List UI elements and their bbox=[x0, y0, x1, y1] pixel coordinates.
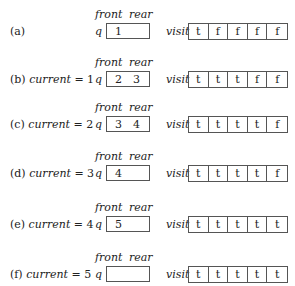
queue-value: 3 bbox=[115, 117, 122, 132]
visit-cell: t bbox=[189, 117, 209, 132]
queue-value: 4 bbox=[133, 117, 140, 132]
visit-array: ttttf bbox=[188, 165, 288, 182]
visit-array: tttff bbox=[188, 71, 288, 88]
visit-cell: t bbox=[248, 117, 268, 132]
step-label: (c) current = 2 bbox=[10, 118, 93, 131]
visit-cell: t bbox=[228, 267, 248, 282]
step-label: (d) current = 3 bbox=[10, 167, 94, 180]
queue-box: 34 bbox=[106, 116, 150, 132]
queue-name: q bbox=[95, 73, 102, 86]
queue-name: q bbox=[95, 167, 102, 180]
queue-value: 4 bbox=[115, 166, 122, 181]
visit-cell: t bbox=[189, 72, 209, 87]
queue-value: 5 bbox=[115, 217, 122, 232]
front-label: front bbox=[95, 56, 122, 69]
queue-box: 4 bbox=[106, 165, 150, 181]
queue-box: 1 bbox=[106, 23, 150, 39]
visit-name: visit bbox=[166, 167, 189, 180]
visit-name: visit bbox=[166, 218, 189, 231]
visit-name: visit bbox=[166, 73, 189, 86]
visit-cell: t bbox=[189, 267, 209, 282]
visit-name: visit bbox=[166, 25, 189, 38]
step-label: (e) current = 4 bbox=[10, 218, 94, 231]
queue-box: 5 bbox=[106, 216, 150, 232]
visit-cell: t bbox=[228, 217, 248, 232]
visit-cell: f bbox=[267, 117, 287, 132]
queue-name: q bbox=[95, 218, 102, 231]
rear-label: rear bbox=[129, 101, 153, 114]
visit-cell: f bbox=[267, 166, 287, 181]
visit-cell: f bbox=[267, 72, 287, 87]
trace-step: (f) current = 5 front rear q visit ttttt bbox=[0, 249, 295, 286]
visit-cell: t bbox=[209, 217, 229, 232]
visit-cell: f bbox=[267, 24, 287, 39]
rear-label: rear bbox=[129, 150, 153, 163]
visit-array: tffff bbox=[188, 23, 288, 40]
step-label: (a) bbox=[10, 25, 25, 38]
rear-label: rear bbox=[129, 201, 153, 214]
visit-cell: t bbox=[267, 267, 287, 282]
visit-name: visit bbox=[166, 268, 189, 281]
visit-array: ttttt bbox=[188, 266, 288, 283]
visit-cell: t bbox=[248, 217, 268, 232]
front-label: front bbox=[95, 8, 122, 21]
rear-label: rear bbox=[129, 8, 153, 21]
visit-cell: t bbox=[209, 117, 229, 132]
trace-step: (e) current = 4 front rear q 5 visit ttt… bbox=[0, 199, 295, 239]
visit-cell: t bbox=[209, 166, 229, 181]
visit-array: ttttf bbox=[188, 116, 288, 133]
rear-label: rear bbox=[129, 56, 153, 69]
queue-value: 2 bbox=[115, 72, 122, 87]
trace-step: (c) current = 2 front rear q 34 visit tt… bbox=[0, 99, 295, 139]
trace-step: (b) current = 1 front rear q 23 visit tt… bbox=[0, 54, 295, 94]
visit-cell: f bbox=[248, 72, 268, 87]
queue-value: 3 bbox=[133, 72, 140, 87]
visit-cell: t bbox=[228, 166, 248, 181]
visit-name: visit bbox=[166, 118, 189, 131]
visit-array: ttttt bbox=[188, 216, 288, 233]
step-label: (b) current = 1 bbox=[10, 73, 94, 86]
front-label: front bbox=[95, 201, 122, 214]
visit-cell: t bbox=[189, 24, 209, 39]
queue-box bbox=[106, 266, 150, 282]
visit-cell: t bbox=[189, 217, 209, 232]
queue-value: 1 bbox=[115, 24, 122, 39]
queue-name: q bbox=[95, 25, 102, 38]
visit-cell: f bbox=[248, 24, 268, 39]
rear-label: rear bbox=[129, 251, 153, 264]
step-label: (f) current = 5 bbox=[10, 268, 91, 281]
queue-box: 23 bbox=[106, 71, 150, 87]
visit-cell: t bbox=[267, 217, 287, 232]
visit-cell: t bbox=[248, 267, 268, 282]
visit-cell: f bbox=[228, 24, 248, 39]
visit-cell: t bbox=[189, 166, 209, 181]
front-label: front bbox=[95, 101, 122, 114]
visit-cell: t bbox=[209, 267, 229, 282]
queue-name: q bbox=[95, 118, 102, 131]
trace-step: (a) front rear q 1 visit tffff bbox=[0, 6, 295, 46]
front-label: front bbox=[95, 150, 122, 163]
trace-step: (d) current = 3 front rear q 4 visit ttt… bbox=[0, 148, 295, 188]
visit-cell: t bbox=[209, 72, 229, 87]
queue-name: q bbox=[95, 268, 102, 281]
front-label: front bbox=[95, 251, 122, 264]
visit-cell: t bbox=[228, 117, 248, 132]
visit-cell: f bbox=[209, 24, 229, 39]
visit-cell: t bbox=[248, 166, 268, 181]
visit-cell: t bbox=[228, 72, 248, 87]
